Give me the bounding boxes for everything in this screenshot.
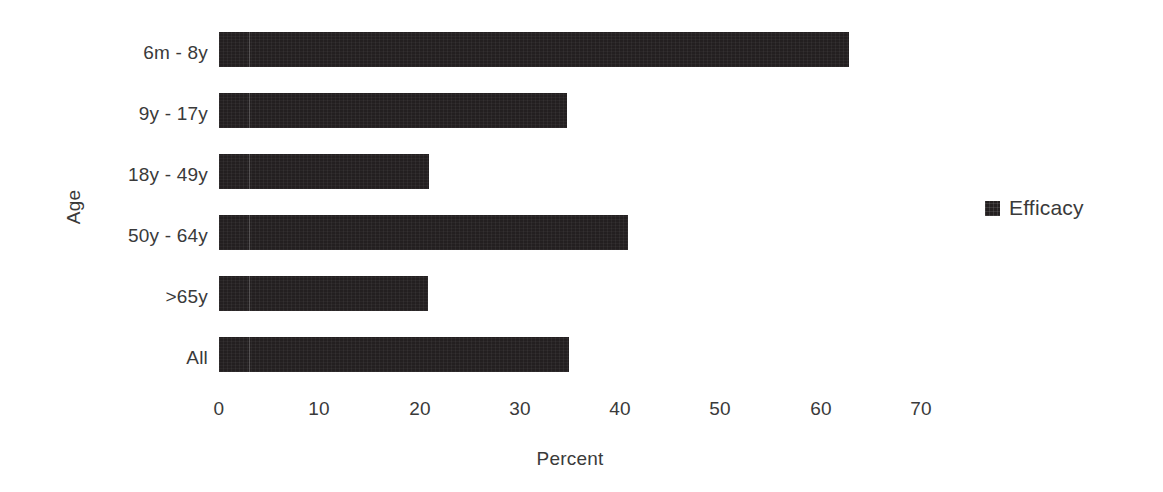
bar-scan-line (249, 32, 250, 67)
x-axis-tick-label: 50 (709, 398, 731, 420)
plot-area (219, 18, 921, 380)
y-axis-tick-label: 9y - 17y (60, 103, 208, 125)
x-axis-ticks: 010203040506070 (219, 398, 921, 424)
bar (219, 93, 567, 128)
bar (219, 337, 569, 372)
y-axis-category-labels: 6m - 8y 9y - 17y 18y - 49y 50y - 64y >65… (60, 18, 208, 380)
bar-texture (219, 337, 569, 372)
bar-texture (219, 154, 429, 189)
legend-label: Efficacy (1009, 196, 1084, 220)
bar-texture (219, 32, 849, 67)
bar (219, 32, 849, 67)
bar-scan-line (249, 93, 250, 128)
efficacy-swatch-icon (985, 201, 1000, 216)
x-axis-tick-label: 60 (810, 398, 832, 420)
legend: Efficacy (985, 196, 1084, 220)
bar-scan-line (249, 215, 250, 250)
x-axis-tick-label: 0 (214, 398, 225, 420)
bar-scan-line (249, 337, 250, 372)
bar (219, 215, 628, 250)
bar-scan-line (249, 276, 250, 311)
bar-scan-line (249, 154, 250, 189)
y-axis-tick-label: 18y - 49y (60, 164, 208, 186)
x-axis-tick-label: 40 (609, 398, 631, 420)
bar-texture (219, 93, 567, 128)
x-axis-tick-label: 20 (409, 398, 431, 420)
x-axis-title: Percent (219, 448, 921, 470)
bar-chart: Age 6m - 8y 9y - 17y 18y - 49y 50y - 64y… (0, 0, 1163, 492)
bar (219, 276, 428, 311)
bar-texture (219, 276, 428, 311)
y-axis-tick-label: 6m - 8y (60, 42, 208, 64)
bar (219, 154, 429, 189)
y-axis-tick-label: 50y - 64y (60, 225, 208, 247)
x-axis-tick-label: 30 (509, 398, 531, 420)
y-axis-tick-label: >65y (60, 286, 208, 308)
y-axis-tick-label: All (60, 347, 208, 369)
x-axis-tick-label: 70 (910, 398, 932, 420)
x-axis-tick-label: 10 (308, 398, 330, 420)
bar-texture (219, 215, 628, 250)
